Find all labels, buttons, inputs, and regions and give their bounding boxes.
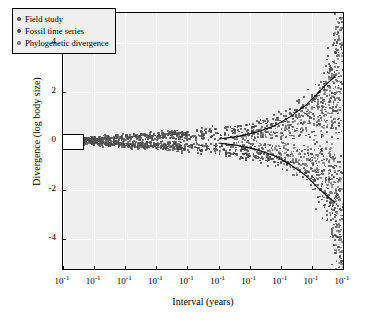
envelope-curve [219, 77, 336, 140]
y-tick-label: 2 [30, 85, 56, 95]
y-tick-label: -4 [30, 232, 56, 242]
x-tick-label: 10-1 [322, 274, 362, 286]
chart-figure: Divergence (log body size) Interval (yea… [0, 0, 372, 330]
x-tick [343, 266, 344, 270]
legend-item-field-study: Field study [17, 13, 109, 25]
y-tick-label: 0 [30, 134, 56, 144]
legend: Field study Fossil time series Phylogene… [12, 8, 116, 54]
legend-marker-icon [17, 29, 21, 33]
legend-label: Field study [25, 13, 63, 25]
y-tick-label: 4 [30, 36, 56, 46]
x-axis-title: Interval (years) [62, 296, 344, 307]
y-tick-label: -2 [30, 183, 56, 193]
x-gridline [343, 13, 344, 269]
legend-marker-icon [17, 41, 21, 45]
legend-marker-icon [17, 17, 21, 21]
origin-box-marker [62, 134, 84, 150]
envelope-curve [219, 143, 336, 203]
